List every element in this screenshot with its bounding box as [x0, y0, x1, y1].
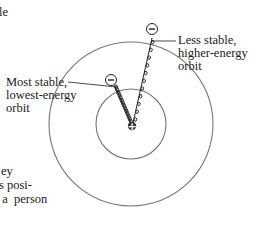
body-text-fragment-block: ey s posi- a person [0, 164, 47, 206]
nucleus-plus-symbol: + [127, 120, 136, 133]
outer-spring-coil [151, 40, 154, 44]
inner-spring [114, 84, 133, 124]
nucleus: + [127, 120, 136, 133]
outer-spring-coil [144, 71, 147, 75]
outer-spring-coil [146, 63, 149, 67]
inner-spring-coil [124, 108, 129, 113]
outer-spring-coil [141, 87, 144, 91]
outer-electron [147, 24, 158, 35]
outer-spring-coil [139, 94, 142, 98]
inner-spring-coil [122, 103, 127, 108]
body-text-line-1: ey [0, 164, 47, 178]
inner-spring-coil [125, 111, 130, 116]
outer-orbit-label-line-3: orbit [178, 60, 248, 73]
outer-orbit-label: Less stable, higher-energy orbit [178, 34, 248, 73]
outer-spring-coil [136, 110, 139, 114]
inner-spring-coil [126, 114, 131, 119]
outer-spring-coil [149, 48, 152, 52]
body-text-fragment-top: le [0, 6, 8, 19]
inner-orbit-label: Most stable, lowest-energy orbit [6, 76, 77, 115]
outer-spring [133, 38, 154, 123]
body-text-line-3: a person [0, 192, 47, 206]
inner-spring-coil [121, 100, 126, 105]
body-text-line-2: s posi- [0, 178, 47, 192]
inner-electron [106, 75, 117, 86]
inner-spring-coil [117, 92, 122, 97]
inner-orbit-label-line-3: orbit [6, 102, 77, 115]
outer-spring-coil [148, 56, 151, 60]
outer-spring-coil [137, 102, 140, 106]
outer-spring-coil [142, 79, 145, 83]
inner-spring-coil [118, 95, 123, 100]
